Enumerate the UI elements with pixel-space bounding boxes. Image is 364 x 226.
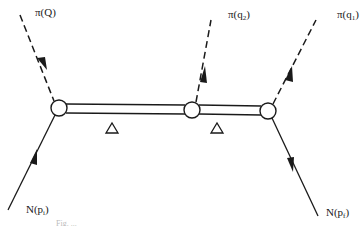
- label-N-pi: N(pi): [26, 204, 49, 217]
- delta-symbol-1: [106, 123, 118, 133]
- feynman-diagram: [0, 0, 364, 226]
- label-close: ): [246, 8, 250, 20]
- vertex-2: [184, 102, 200, 118]
- arrow-down-icon: [37, 57, 47, 70]
- arrow-up-icon: [285, 66, 293, 82]
- figure-caption: Fig. ...: [56, 219, 77, 226]
- label-pi-q2: π(q2): [228, 9, 250, 22]
- nucleon-line-out: [272, 118, 318, 216]
- pion-line-Q: [20, 15, 54, 101]
- label-text: N(p: [26, 203, 43, 215]
- label-text: N(p: [326, 206, 343, 218]
- vertex-1: [51, 100, 67, 116]
- nucleon-line-in: [8, 115, 55, 210]
- arrow-up-icon: [30, 149, 37, 165]
- label-text: π(q: [337, 8, 352, 20]
- pion-line-q2: [196, 20, 211, 102]
- pion-line-q1: [273, 20, 316, 104]
- vertex-3: [260, 103, 276, 119]
- arrow-down-icon: [287, 157, 294, 172]
- delta-propagator-2: [199, 105, 261, 115]
- delta-propagator-1: [66, 104, 185, 114]
- label-text: π(q: [228, 8, 243, 20]
- label-text: π(Q): [35, 6, 56, 18]
- label-pi-q1: π(q1): [337, 9, 359, 22]
- label-close: ): [355, 8, 359, 20]
- label-close: ): [45, 203, 49, 215]
- label-close: ): [345, 206, 349, 218]
- label-pi-Q: π(Q): [35, 7, 56, 18]
- label-N-pf: N(pf): [326, 207, 349, 220]
- delta-symbol-2: [211, 123, 223, 133]
